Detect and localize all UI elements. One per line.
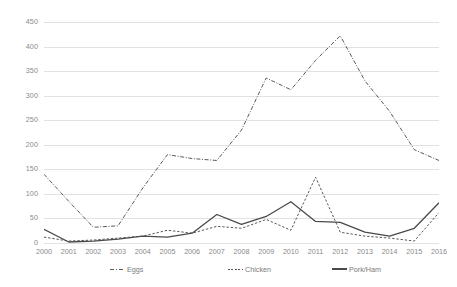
- y-tick-label: 300: [4, 92, 38, 100]
- series-line-pork-ham: [44, 202, 439, 242]
- y-tick-label: 200: [4, 141, 38, 149]
- y-tick-label: 400: [4, 43, 38, 51]
- legend-item-pork-ham[interactable]: Pork/Ham: [332, 264, 381, 276]
- y-tick-label: 350: [4, 67, 38, 75]
- y-tick-label: 50: [4, 214, 38, 222]
- y-tick-label: 100: [4, 190, 38, 198]
- series-line-eggs: [44, 36, 439, 228]
- legend-swatch-icon: [228, 269, 243, 270]
- x-axis: 2000200120022003200420052006200720082009…: [44, 248, 439, 258]
- series-lines: [44, 22, 439, 243]
- legend-item-eggs[interactable]: Eggs: [110, 264, 143, 276]
- x-tick-label: 2016: [422, 248, 456, 256]
- legend-swatch-icon: [332, 268, 347, 270]
- legend-label: Chicken: [245, 264, 271, 276]
- legend-label: Eggs: [127, 264, 143, 276]
- y-tick-label: 0: [4, 239, 38, 247]
- y-tick-label: 250: [4, 116, 38, 124]
- chart-legend: EggsChickenPork/Ham: [44, 264, 439, 276]
- gridline-0: [44, 243, 439, 244]
- legend-item-chicken[interactable]: Chicken: [228, 264, 271, 276]
- plot-area: [44, 22, 439, 243]
- series-line-chicken: [44, 177, 439, 241]
- line-chart: 050100150200250300350400450 200020012002…: [0, 0, 457, 287]
- legend-swatch-icon: [110, 269, 125, 270]
- legend-label: Pork/Ham: [349, 264, 381, 276]
- y-axis: 050100150200250300350400450: [4, 18, 38, 247]
- y-tick-label: 450: [4, 18, 38, 26]
- y-tick-label: 150: [4, 165, 38, 173]
